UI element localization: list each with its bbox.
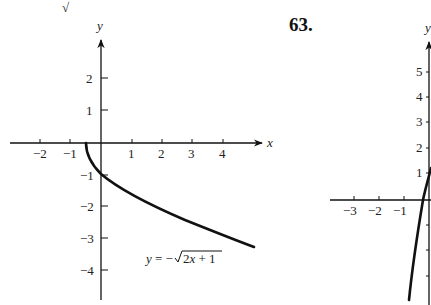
y-tick-label: 2 (86, 71, 93, 86)
y-tick-label: 1 (86, 103, 93, 118)
y-tick-label: 1 (416, 165, 423, 180)
function-curve (86, 143, 254, 247)
x-tick-label: 1 (128, 146, 135, 161)
top-fragment-text: √ (62, 0, 70, 15)
y-axis-label: y (95, 18, 103, 33)
y-tick-label: 5 (416, 64, 423, 79)
y-tick-label: 4 (416, 89, 423, 104)
x-tick-label: −1 (393, 203, 407, 218)
y-tick-label: −2 (80, 199, 94, 214)
x-axis-label: x (266, 135, 273, 150)
y-tick-label: −1 (80, 168, 94, 183)
figure-canvas: √ x y −2 −1 1 2 3 4 2 (0, 0, 431, 305)
x-tick-label: −2 (368, 203, 382, 218)
y-axis-label: y (423, 20, 431, 35)
equation-label: y = − 2x + 1 (144, 251, 222, 266)
x-tick-label: 2 (158, 146, 165, 161)
y-tick-label: −4 (80, 263, 94, 278)
x-tick-label: 3 (188, 146, 195, 161)
svg-text:y = −: y = − (144, 251, 173, 266)
x-tick-label: −2 (33, 146, 47, 161)
left-graph: x y −2 −1 1 2 3 4 2 1 −1 −2 −3 − (10, 18, 273, 300)
y-tick-label: −3 (80, 231, 94, 246)
y-tick-label: 3 (416, 114, 423, 129)
y-tick-label: 2 (416, 140, 423, 155)
x-tick-label: −3 (343, 203, 357, 218)
x-tick-label: 4 (219, 146, 226, 161)
problem-number: 63. (289, 14, 313, 35)
function-curve (409, 168, 431, 300)
x-tick-label: −1 (63, 146, 77, 161)
right-graph: y −3 −2 −1 5 4 3 2 1 (330, 20, 431, 305)
svg-text:2x + 1: 2x + 1 (183, 251, 216, 266)
